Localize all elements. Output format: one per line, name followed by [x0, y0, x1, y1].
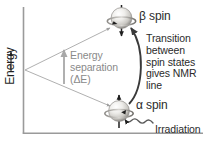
transition-arrow-path — [129, 28, 141, 104]
energy-separation-delta-e: (ΔE) — [70, 73, 91, 85]
transition-annotation: Transition between spin states gives NMR… — [146, 33, 206, 92]
energy-separation-line1: Energy — [70, 49, 103, 61]
energy-separation-line2: separation — [70, 61, 118, 73]
irradiation-wave-path — [125, 119, 153, 123]
beta-spin-state — [107, 5, 135, 36]
irradiation-label: Irradiation — [155, 124, 201, 135]
alpha-spin-state — [105, 95, 133, 128]
nmr-spin-energy-diagram: β spin α spin Transition between spin st… — [0, 0, 206, 145]
alpha-spin-label: α spin — [136, 99, 168, 111]
energy-separation-annotation: Energy separation (ΔE) — [70, 50, 126, 85]
irradiation-squiggle-arrow — [125, 119, 153, 123]
beta-spin-label: β spin — [139, 10, 171, 22]
transition-arrow — [129, 28, 141, 104]
y-axis-label: Energy — [4, 38, 16, 94]
